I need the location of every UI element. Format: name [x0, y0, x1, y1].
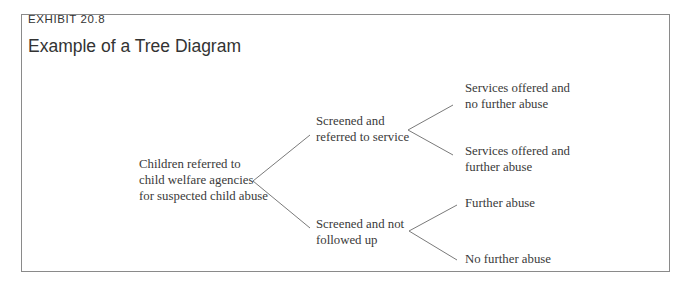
node-line: Screened and not [316, 216, 404, 232]
node-line: No further abuse [465, 251, 551, 267]
node-line: Services offered and [465, 143, 570, 159]
edge-referred-to-no-further-abuse [408, 105, 453, 130]
node-line: referred to service [316, 129, 409, 145]
root-node: Children referred to child welfare agenc… [139, 156, 268, 204]
edge-not-followed-to-no-further-abuse [409, 231, 457, 260]
leaf-no-further-abuse: No further abuse [465, 251, 551, 267]
root-node-line-1: Children referred to [139, 156, 268, 172]
node-line: Services offered and [465, 80, 570, 96]
node-line: followed up [316, 232, 404, 248]
edge-not-followed-to-further-abuse [409, 205, 457, 231]
node-line: no further abuse [465, 96, 570, 112]
node-screened-referred: Screened and referred to service [316, 113, 409, 145]
node-screened-not-followed: Screened and not followed up [316, 216, 404, 248]
edge-referred-to-further-abuse [408, 130, 453, 155]
leaf-services-further-abuse: Services offered and further abuse [465, 143, 570, 175]
leaf-services-no-further-abuse: Services offered and no further abuse [465, 80, 570, 112]
root-node-line-2: child welfare agencies [139, 172, 268, 188]
root-node-line-3: for suspected child abuse [139, 188, 268, 204]
leaf-further-abuse: Further abuse [465, 195, 535, 211]
node-line: Screened and [316, 113, 409, 129]
node-line: further abuse [465, 159, 570, 175]
node-line: Further abuse [465, 195, 535, 211]
